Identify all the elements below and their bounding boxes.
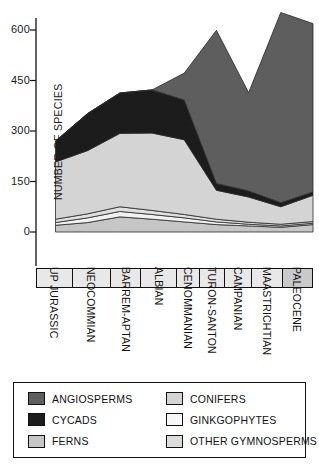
legend-swatch-icon xyxy=(28,392,45,405)
y-tick-label-300: 300 xyxy=(0,124,30,136)
legend-swatch-icon xyxy=(28,435,45,448)
x-category-cenommanian: CENOMMANIAN xyxy=(177,269,199,287)
legend-item-angiosperms: ANGIOSPERMS xyxy=(28,392,166,405)
legend-item-cycads: CYCADS xyxy=(28,413,166,426)
legend-label: OTHER GYMNOSPERMS xyxy=(190,435,317,447)
legend-item-ferns: FERNS xyxy=(28,435,166,448)
chart-legend: ANGIOSPERMSCONIFERSCYCADSGINKGOPHYTESFER… xyxy=(13,382,306,458)
legend-label: FERNS xyxy=(52,435,89,447)
legend-item-ginkgophytes: GINKGOPHYTES xyxy=(166,413,317,426)
x-category-label: CENOMMANIAN xyxy=(182,267,194,349)
x-category-label: TURON-SANTON xyxy=(206,267,218,354)
legend-item-conifers: CONIFERS xyxy=(166,392,317,405)
x-category-label: ALBIAN xyxy=(153,267,165,306)
x-category-neocommian: NEOCOMMIAN xyxy=(73,269,111,287)
legend-swatch-icon xyxy=(166,435,183,448)
x-category-label: PALEOCENE xyxy=(291,267,303,332)
legend-swatch-icon xyxy=(166,392,183,405)
legend-swatch-icon xyxy=(166,413,183,426)
legend-label: CONIFERS xyxy=(190,393,246,405)
x-category-label: MAASTRICHTIAN xyxy=(261,267,273,355)
x-category-paleocene: PALEOCENE xyxy=(283,269,312,287)
legend-swatch-icon xyxy=(28,413,45,426)
x-category-turon-santon: TURON-SANTON xyxy=(200,269,225,287)
x-category-label: NEOCOMMIAN xyxy=(85,267,97,343)
x-category-label: BARREM-APTAN xyxy=(120,267,132,352)
series-layer xyxy=(56,12,314,232)
y-axis-title: NUMBER OF SPECIES xyxy=(52,83,64,200)
x-category-label: UP JURASSIC xyxy=(48,267,60,338)
y-tick-label-600: 600 xyxy=(0,23,30,35)
legend-label: CYCADS xyxy=(52,414,97,426)
x-category-barrem-aptan: BARREM-APTAN xyxy=(111,269,141,287)
legend-item-other-gymnosperms: OTHER GYMNOSPERMS xyxy=(166,435,317,448)
x-category-albian: ALBIAN xyxy=(141,269,177,287)
y-tick-label-150: 150 xyxy=(0,175,30,187)
plot-svg xyxy=(0,0,319,290)
x-category-campanian: CAMPANIAN xyxy=(225,269,253,287)
axis-layer xyxy=(30,18,36,266)
x-category-label: CAMPANIAN xyxy=(232,267,244,330)
legend-label: ANGIOSPERMS xyxy=(52,393,132,405)
stacked-area-chart: 0150300450600 NUMBER OF SPECIES xyxy=(0,0,319,290)
chart-page: 0150300450600 NUMBER OF SPECIES UP JURAS… xyxy=(0,0,319,470)
x-category-up-jurassic: UP JURASSIC xyxy=(37,269,73,287)
y-tick-label-0: 0 xyxy=(0,225,30,237)
x-axis-categories: UP JURASSICNEOCOMMIANBARREM-APTANALBIANC… xyxy=(36,268,313,288)
y-tick-label-450: 450 xyxy=(0,74,30,86)
legend-label: GINKGOPHYTES xyxy=(190,414,276,426)
x-category-maastrichtian: MAASTRICHTIAN xyxy=(252,269,282,287)
y-tick-marks xyxy=(30,30,36,232)
